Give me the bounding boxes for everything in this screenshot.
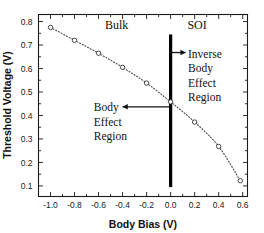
data-point-marker: [48, 25, 52, 29]
data-point-marker: [96, 51, 100, 55]
region-label-soi: SOI: [187, 18, 206, 32]
annotation-effect: Effect: [94, 116, 123, 128]
region-label-bulk: Bulk: [105, 18, 128, 32]
x-tick-label: 0.6: [237, 200, 249, 210]
threshold-voltage-vs-body-bias-chart: -1.0-0.8-0.6-0.4-0.20.00.20.40.6 0.10.20…: [0, 0, 264, 233]
x-tick-label: -1.0: [43, 200, 58, 210]
data-point-marker: [216, 144, 220, 148]
y-axis-title: Threshold Voltage (V): [1, 51, 13, 159]
annotation-body: Body: [94, 101, 119, 114]
annotation-region: Region: [94, 130, 127, 143]
y-tick-label: 0.8: [21, 17, 33, 27]
annotation-inverse-effect: Effect: [188, 77, 217, 89]
data-point-marker: [144, 81, 148, 85]
x-tick-label: 0.0: [165, 200, 177, 210]
y-tick-label: 0.7: [21, 40, 33, 50]
x-tick-label: -0.6: [91, 200, 106, 210]
annotation-inverse-body: Body: [188, 62, 213, 75]
x-tick-labels: -1.0-0.8-0.6-0.4-0.20.00.20.40.6: [43, 200, 249, 210]
y-tick-label: 0.2: [21, 158, 33, 168]
x-tick-label: -0.2: [139, 200, 154, 210]
y-tick-label: 0.1: [21, 181, 33, 191]
y-tick-label: 0.4: [21, 111, 33, 121]
data-point-marker: [238, 179, 242, 183]
data-point-marker: [168, 100, 172, 104]
x-tick-label: 0.4: [213, 200, 225, 210]
y-tick-label: 0.3: [21, 134, 33, 144]
annotation-inverse-region: Region: [188, 91, 221, 104]
chart-figure: -1.0-0.8-0.6-0.4-0.20.00.20.40.6 0.10.20…: [0, 0, 264, 233]
y-tick-label: 0.6: [21, 64, 33, 74]
data-point-marker: [192, 120, 196, 124]
data-point-marker: [72, 38, 76, 42]
chart-background: [0, 0, 264, 233]
x-tick-label: -0.8: [67, 200, 82, 210]
x-tick-label: 0.2: [189, 200, 201, 210]
x-tick-label: -0.4: [115, 200, 130, 210]
x-axis-title: Body Bias (V): [109, 218, 177, 230]
data-point-marker: [120, 65, 124, 69]
y-tick-label: 0.5: [21, 87, 33, 97]
annotation-inverse: Inverse: [188, 48, 222, 60]
